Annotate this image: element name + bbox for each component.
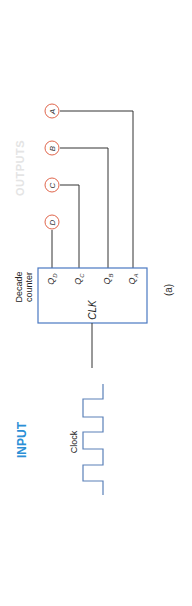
decade-counter-label: Decade counter xyxy=(14,271,34,302)
pin-qd: QD xyxy=(46,273,58,284)
pin-qc: QC xyxy=(73,273,85,284)
pin-qb: QB xyxy=(102,273,114,284)
output-b-label: B xyxy=(48,145,57,150)
clock-waveform xyxy=(83,384,103,495)
counter-label-line1: Decade xyxy=(14,271,24,302)
output-a-label: A xyxy=(48,108,57,113)
output-d-label: D xyxy=(48,219,57,225)
counter-label-line2: counter xyxy=(24,271,34,302)
output-c-label: C xyxy=(48,182,57,188)
figure-caption: (a) xyxy=(163,284,174,296)
output-d-circle: D xyxy=(45,215,60,230)
output-b-circle: B xyxy=(45,141,60,156)
outputs-heading: OUTPUTS xyxy=(14,140,26,196)
output-a-circle: A xyxy=(45,104,60,119)
pin-qa: QA xyxy=(127,273,139,284)
clock-label: Clock xyxy=(69,431,79,454)
output-c-circle: C xyxy=(45,178,60,193)
wire-c xyxy=(60,185,79,268)
wire-a xyxy=(60,111,133,268)
input-heading: INPUT xyxy=(15,422,29,458)
clk-pin-label: CLK xyxy=(87,300,98,319)
wire-b xyxy=(60,148,108,268)
